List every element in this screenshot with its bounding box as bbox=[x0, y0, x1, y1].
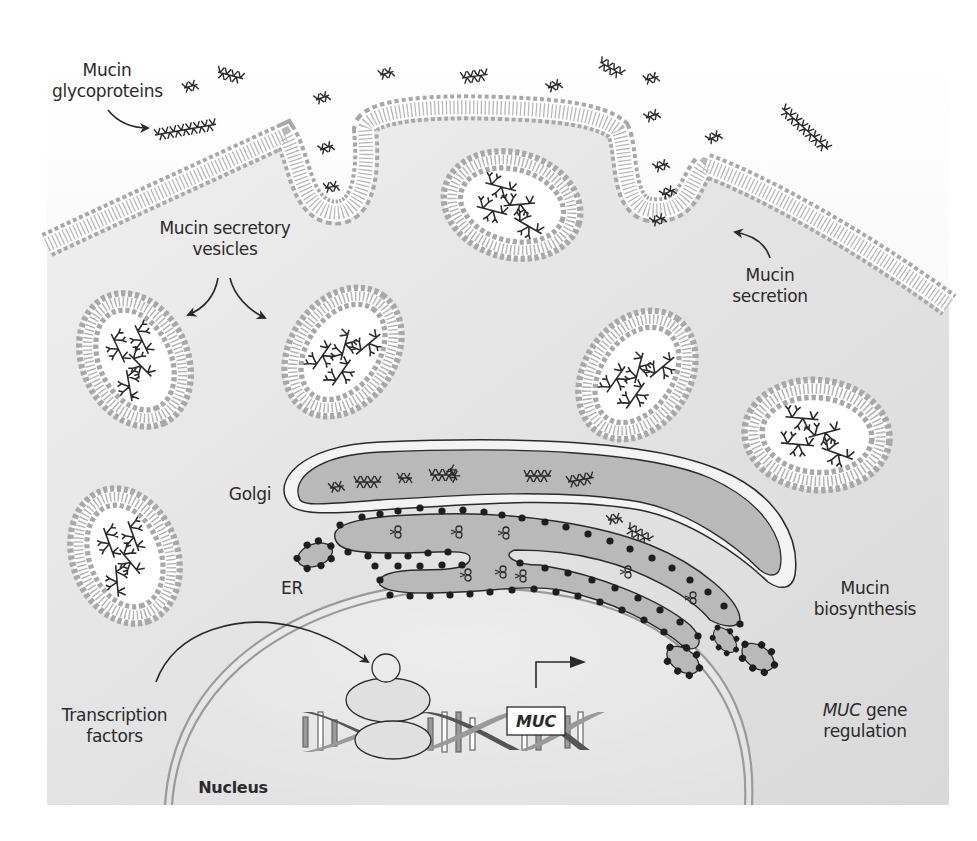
label-line: secretion bbox=[720, 286, 820, 307]
label-line: Mucin bbox=[52, 60, 162, 81]
label-line: biosynthesis bbox=[800, 599, 930, 620]
label-mucin-biosynthesis: Mucin biosynthesis bbox=[800, 578, 930, 620]
label-line: Transcription bbox=[52, 705, 177, 726]
label-line: MUC gene bbox=[800, 700, 930, 721]
label-muc-gene-regulation: MUC gene regulation bbox=[800, 700, 930, 742]
label-golgi: Golgi bbox=[220, 484, 280, 505]
label-line: regulation bbox=[800, 721, 930, 742]
label-line: glycoproteins bbox=[52, 81, 162, 102]
label-muc-gene: MUC bbox=[507, 711, 565, 732]
label-secretory-vesicles: Mucin secretory vesicles bbox=[130, 218, 320, 260]
muc-italic: MUC bbox=[823, 700, 861, 720]
label-nucleus: Nucleus bbox=[188, 777, 278, 798]
label-line: Mucin secretory bbox=[130, 218, 320, 239]
label-line: vesicles bbox=[130, 239, 320, 260]
label-line: Mucin bbox=[720, 265, 820, 286]
label-line: Mucin bbox=[800, 578, 930, 599]
label-er: ER bbox=[272, 578, 312, 599]
label-mucin-glycoproteins: Mucin glycoproteins bbox=[52, 60, 162, 102]
label-mucin-secretion: Mucin secretion bbox=[720, 265, 820, 307]
label-transcription-factors: Transcription factors bbox=[52, 705, 177, 747]
gene-text: gene bbox=[861, 700, 907, 720]
mucin-secretion-diagram: Mucin glycoproteins Mucin secretory vesi… bbox=[0, 0, 977, 841]
label-line: factors bbox=[52, 726, 177, 747]
